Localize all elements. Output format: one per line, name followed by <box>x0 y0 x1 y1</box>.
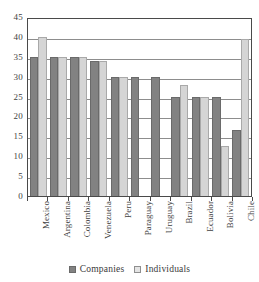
individuals-swatch <box>134 266 141 273</box>
bar-individuals <box>221 146 230 196</box>
chart-legend: CompaniesIndividuals <box>0 264 259 274</box>
bar-companies <box>212 97 221 196</box>
bar-companies <box>151 77 160 196</box>
bar-individuals <box>58 57 67 196</box>
y-tick-label: 20 <box>14 112 23 121</box>
x-label-cell: Bolivia <box>211 201 231 259</box>
y-tick-label: 30 <box>14 73 23 82</box>
bar-individuals <box>99 61 108 196</box>
bar-group <box>48 19 68 196</box>
bars-layer <box>28 19 251 196</box>
bar-individuals <box>200 97 209 196</box>
x-label-cell: Chile <box>232 201 252 259</box>
x-label-cell: Venezuela <box>88 201 108 259</box>
y-tick-label: 35 <box>14 53 23 62</box>
x-label-cell: Argentina <box>47 201 67 259</box>
plot-area <box>27 18 252 197</box>
bar-individuals <box>180 85 189 196</box>
x-label-cell: Brazil <box>170 201 190 259</box>
legend-label: Companies <box>80 264 125 274</box>
x-label-cell: Peru <box>109 201 129 259</box>
bar-companies <box>70 57 79 196</box>
y-tick-label: 15 <box>14 132 23 141</box>
y-tick-label: 5 <box>18 172 23 181</box>
bar-chart: 454035302520151050 MexicoArgentinaColomb… <box>0 0 259 282</box>
bar-companies <box>111 77 120 196</box>
bar-group <box>210 19 230 196</box>
bar-group <box>231 19 251 196</box>
bar-companies <box>30 57 39 196</box>
x-label-cell: Ecuador <box>191 201 211 259</box>
bar-individuals <box>119 77 128 196</box>
legend-label: Individuals <box>145 264 190 274</box>
bar-group <box>150 19 170 196</box>
x-label-cell: Mexico <box>27 201 47 259</box>
bar-individuals <box>38 37 47 196</box>
bar-individuals <box>241 39 250 196</box>
legend-item: Companies <box>69 264 125 274</box>
bar-group <box>129 19 149 196</box>
x-label-cell: Uruguay <box>150 201 170 259</box>
bar-companies <box>192 97 201 196</box>
bar-group <box>28 19 48 196</box>
bar-group <box>109 19 129 196</box>
bar-group <box>69 19 89 196</box>
y-tick-label: 45 <box>14 13 23 22</box>
x-axis-label: Chile <box>246 201 256 221</box>
x-axis-labels: MexicoArgentinaColombiaVenezuelaPeruPara… <box>27 201 252 259</box>
bar-group <box>170 19 190 196</box>
bar-companies <box>50 57 59 196</box>
bar-companies <box>171 97 180 196</box>
bar-group <box>89 19 109 196</box>
y-axis: 454035302520151050 <box>0 0 27 282</box>
y-tick-label: 25 <box>14 93 23 102</box>
x-label-cell: Colombia <box>68 201 88 259</box>
bar-individuals <box>79 57 88 196</box>
y-tick-label: 10 <box>14 152 23 161</box>
y-tick-label: 0 <box>18 192 23 201</box>
bar-companies <box>90 61 99 196</box>
bar-companies <box>232 130 241 196</box>
x-label-cell: Paraguay <box>129 201 149 259</box>
companies-swatch <box>69 266 76 273</box>
y-tick-label: 40 <box>14 33 23 42</box>
bar-companies <box>131 77 140 196</box>
bar-group <box>190 19 210 196</box>
legend-item: Individuals <box>134 264 190 274</box>
